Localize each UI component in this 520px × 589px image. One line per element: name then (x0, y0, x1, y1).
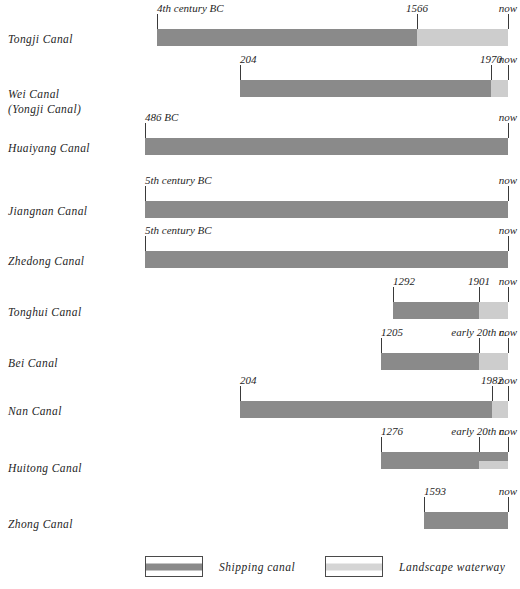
tick-mark (240, 386, 241, 401)
tick-date-label: 1292 (393, 275, 415, 287)
timeline-bar (381, 353, 508, 370)
tick-mark (491, 65, 492, 80)
bar-segment-landscape (479, 302, 508, 319)
tick-date-label: 1593 (424, 485, 446, 497)
tick-date-label: now (499, 2, 517, 14)
row-label-wei-canal: Wei Canal(Yongji Canal) (8, 88, 81, 115)
legend-label: Shipping canal (219, 561, 295, 573)
tick-mark (508, 287, 509, 302)
row-label-bei-canal: Bei Canal (8, 357, 58, 369)
bar-segment-shipping (240, 80, 491, 97)
bar-segment-shipping (393, 302, 479, 319)
row-label-tonghui-canal: Tonghui Canal (8, 306, 81, 318)
timeline-bar (145, 201, 508, 218)
bar-segment-landscape (479, 353, 508, 370)
legend-swatch (325, 556, 383, 577)
bar-segment-landscape (492, 401, 508, 418)
bar-segment-landscape (491, 80, 508, 97)
tick-mark (508, 123, 509, 138)
legend-item: Landscape waterway (325, 556, 505, 577)
tick-mark (381, 338, 382, 353)
tick-mark (508, 236, 509, 251)
timeline-bar (157, 29, 508, 46)
timeline-bar (145, 138, 508, 155)
tick-date-label: now (499, 374, 517, 386)
tick-date-label: 1901 (468, 275, 490, 287)
tick-mark (145, 186, 146, 201)
tick-date-label: 5th century BC (145, 174, 212, 186)
tick-date-label: now (499, 174, 517, 186)
tick-date-label: 204 (240, 374, 257, 386)
tick-mark (240, 65, 241, 80)
canal-timeline-chart: Tongji Canal4th century BC1566nowWei Can… (0, 0, 520, 589)
tick-mark (508, 497, 509, 512)
tick-date-label: now (499, 425, 517, 437)
tick-date-label: now (499, 224, 517, 236)
tick-date-label: now (499, 275, 517, 287)
row-label-huaiyang-canal: Huaiyang Canal (8, 142, 90, 154)
tick-date-label: now (499, 485, 517, 497)
bar-segment-shipping (424, 512, 508, 529)
tick-date-label: 1276 (381, 425, 403, 437)
tick-date-label: 204 (240, 53, 257, 65)
legend-item: Shipping canal (145, 556, 295, 577)
bar-segment-landscape (479, 461, 508, 470)
tick-mark (508, 65, 509, 80)
bar-segment-shipping (145, 251, 508, 268)
bar-segment-shipping (240, 401, 492, 418)
tick-mark (417, 14, 418, 29)
bar-segment-shipping (157, 29, 417, 46)
legend-swatch-band (146, 563, 202, 570)
bar-segment-shipping (145, 138, 508, 155)
row-label-nan-canal: Nan Canal (8, 405, 62, 417)
legend-swatch-band (326, 563, 382, 570)
tick-date-label: now (499, 326, 517, 338)
timeline-bar (393, 302, 508, 319)
tick-mark (145, 123, 146, 138)
row-label-jiangnan-canal: Jiangnan Canal (8, 205, 87, 217)
tick-mark (508, 437, 509, 452)
tick-date-label: 5th century BC (145, 224, 212, 236)
row-label-huitong-canal: Huitong Canal (8, 462, 82, 474)
row-label-zhedong-canal: Zhedong Canal (8, 255, 84, 267)
timeline-bar (145, 251, 508, 268)
tick-mark (479, 338, 480, 353)
tick-mark (479, 287, 480, 302)
tick-date-label: 1205 (381, 326, 403, 338)
tick-mark (393, 287, 394, 302)
tick-date-label: now (499, 53, 517, 65)
tick-date-label: now (499, 111, 517, 123)
legend-label: Landscape waterway (399, 561, 505, 573)
tick-mark (508, 186, 509, 201)
tick-date-label: 1566 (406, 2, 428, 14)
tick-mark (145, 236, 146, 251)
timeline-bar (240, 80, 508, 97)
bar-segment-shipping (145, 201, 508, 218)
bar-segment-landscape (417, 29, 508, 46)
row-label-tongji-canal: Tongji Canal (8, 33, 73, 45)
row-label-zhong-canal: Zhong Canal (8, 518, 73, 530)
tick-mark (157, 14, 158, 29)
row-label-sub: (Yongji Canal) (8, 103, 81, 115)
tick-mark (492, 386, 493, 401)
timeline-bar (381, 452, 508, 469)
tick-mark (508, 338, 509, 353)
tick-mark (424, 497, 425, 512)
tick-mark (479, 437, 480, 452)
timeline-bar (240, 401, 508, 418)
timeline-bar (424, 512, 508, 529)
legend-swatch (145, 556, 203, 577)
tick-date-label: 486 BC (145, 111, 178, 123)
tick-mark (508, 386, 509, 401)
tick-date-label: 4th century BC (157, 2, 224, 14)
tick-mark (381, 437, 382, 452)
tick-mark (508, 14, 509, 29)
bar-segment-shipping (381, 353, 479, 370)
